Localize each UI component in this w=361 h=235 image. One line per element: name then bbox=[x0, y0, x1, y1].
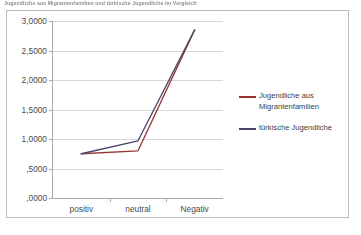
x-axis-tick-label: neutral bbox=[125, 204, 150, 214]
y-axis-tick-label: ,5000 bbox=[26, 164, 47, 174]
plot-area: ,0000,50001,00001,50002,00002,50003,0000… bbox=[53, 21, 223, 198]
y-axis-tick-label: 2,5000 bbox=[22, 46, 47, 56]
y-axis-tick-label: 1,5000 bbox=[22, 105, 47, 115]
x-axis-tick-label: positiv bbox=[70, 204, 94, 214]
legend-swatch-migranten bbox=[239, 96, 256, 98]
series-plot bbox=[53, 21, 223, 198]
y-axis-tick-label: ,0000 bbox=[26, 193, 47, 203]
legend-swatch-tuerkische bbox=[239, 128, 256, 130]
y-axis-tick-label: 2,0000 bbox=[22, 75, 47, 85]
chart-frame: ,0000,50001,00001,50002,00002,50003,0000… bbox=[6, 10, 349, 218]
chart-legend: Jugendliche aus Migrantenfamilien türkis… bbox=[239, 91, 347, 145]
legend-item-tuerkische: türkische Jugendliche bbox=[239, 123, 347, 134]
y-axis-tick-label: 1,0000 bbox=[22, 134, 47, 144]
series-line-migranten bbox=[81, 30, 194, 154]
legend-label-migranten: Jugendliche aus Migrantenfamilien bbox=[259, 91, 347, 112]
x-axis-tick bbox=[110, 198, 111, 202]
series-line-tuerkische bbox=[81, 30, 194, 154]
legend-label-tuerkische: türkische Jugendliche bbox=[259, 123, 332, 134]
chart-page: Jugendliche aus Migrantenfamilien und tü… bbox=[0, 0, 361, 235]
y-axis-tick-label: 3,0000 bbox=[22, 16, 47, 26]
x-axis-tick bbox=[166, 198, 167, 202]
legend-item-migranten: Jugendliche aus Migrantenfamilien bbox=[239, 91, 347, 112]
x-axis-tick-label: Negativ bbox=[181, 204, 209, 214]
figure-caption: Jugendliche aus Migrantenfamilien und tü… bbox=[4, 0, 304, 7]
x-axis-line bbox=[52, 198, 223, 199]
